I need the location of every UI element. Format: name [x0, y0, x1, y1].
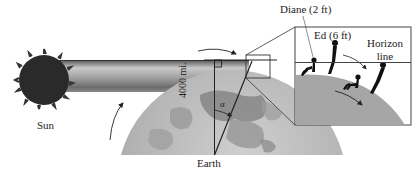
- earth-label: Earth: [197, 158, 221, 169]
- horizon-label-line1: Horizon: [359, 38, 411, 49]
- rotation-arrow-top: [198, 49, 236, 54]
- zoom-connector-top: [246, 27, 295, 55]
- radius-label: 4000 mi.: [178, 62, 188, 98]
- horizon-label-line2: line: [359, 51, 411, 62]
- diane-label: Diane (2 ft): [280, 4, 331, 15]
- sun-label: Sun: [37, 120, 54, 131]
- diagram-canvas: Sun Earth 4000 mi. α Diane (2 ft) Ed (6 …: [0, 0, 412, 171]
- horizon-label: Horizon line: [359, 38, 411, 62]
- ed-label: Ed (6 ft): [314, 30, 351, 41]
- sun-icon: [15, 49, 73, 109]
- angle-label: α: [220, 100, 225, 109]
- rotation-arrow-left: [110, 103, 123, 140]
